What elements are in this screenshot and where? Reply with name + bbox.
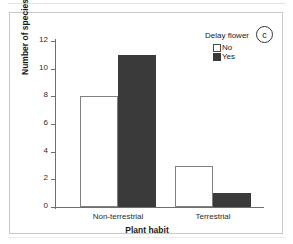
y-tick-label: 10 — [39, 63, 48, 72]
top-divider — [8, 3, 286, 4]
x-axis-title: Plant habit — [10, 225, 284, 235]
bar-terrestrial-yes — [213, 193, 251, 207]
x-tick-label-non-terrestrial: Non-terrestrial — [68, 212, 168, 221]
chart-panel: c Delay flower No Yes 024681012 Non-ter — [9, 12, 283, 234]
bottom-divider — [8, 237, 286, 238]
figure-panel-c: c Delay flower No Yes 024681012 Non-ter — [0, 0, 293, 244]
y-axis-title: Number of species — [20, 0, 30, 75]
y-tick-label: 12 — [39, 35, 48, 44]
y-tick-label: 4 — [44, 146, 48, 155]
plot-area — [55, 41, 263, 207]
y-tick-label: 0 — [44, 201, 48, 210]
y-tick-label: 6 — [44, 118, 48, 127]
x-axis-line — [55, 207, 264, 208]
bar-non-terrestrial-yes — [118, 55, 156, 207]
legend-title: Delay flower — [195, 31, 259, 40]
y-tick-mark — [51, 207, 55, 208]
y-tick-label: 8 — [44, 90, 48, 99]
y-tick-label: 2 — [44, 173, 48, 182]
bar-non-terrestrial-no — [80, 96, 118, 207]
bar-terrestrial-no — [175, 166, 213, 208]
x-tick-label-terrestrial: Terrestrial — [163, 212, 263, 221]
